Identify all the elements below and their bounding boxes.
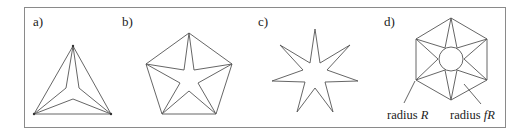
- panel-label-d: d): [384, 14, 395, 29]
- panel-label-a: a): [33, 14, 43, 29]
- leader-line-R: [404, 81, 415, 103]
- radius-R-label: radius R: [387, 108, 429, 122]
- inner-6-point-star: [416, 18, 487, 100]
- outer-pentagon: [146, 33, 232, 114]
- radius-fR-label: radius fR: [450, 108, 495, 122]
- panel-a: a): [33, 14, 112, 115]
- vertex-dot: [72, 45, 74, 47]
- panel-label-b: b): [122, 14, 133, 29]
- vertex-dot: [33, 113, 35, 115]
- inner-5-point-star: [146, 33, 232, 114]
- inner-3-point-star: [34, 46, 111, 114]
- outer-hexagon: [416, 18, 487, 100]
- 7-point-star: [272, 29, 358, 112]
- panel-label-c: c): [258, 14, 268, 29]
- leader-line-fR: [464, 84, 481, 104]
- panel-d: d) radius R radius fR: [384, 14, 495, 122]
- panel-c: c): [258, 14, 358, 112]
- star-polygon-figure: a) b) c) d) radius R radius fR: [0, 0, 525, 136]
- inner-circle: [439, 47, 463, 71]
- panel-b: b): [122, 14, 232, 114]
- outer-triangle: [34, 46, 111, 114]
- vertex-dot: [110, 113, 112, 115]
